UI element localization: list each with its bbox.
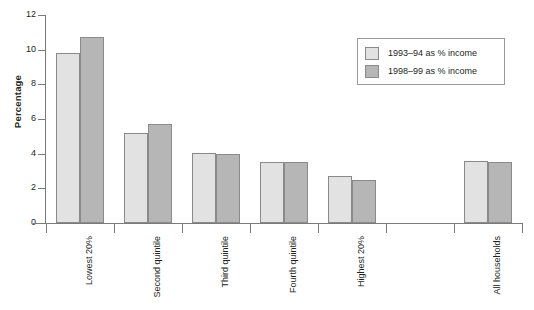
bar bbox=[192, 153, 216, 223]
bar bbox=[260, 162, 284, 223]
x-axis-category-label: Fourth quintile bbox=[288, 236, 298, 293]
bar bbox=[124, 133, 148, 223]
x-tick bbox=[114, 224, 115, 233]
x-tick bbox=[522, 224, 523, 233]
bar bbox=[488, 162, 512, 223]
bar bbox=[56, 53, 80, 223]
legend: 1993–94 as % income 1998–99 as % income bbox=[357, 38, 505, 85]
x-axis-category-label: Third quintile bbox=[220, 236, 230, 288]
x-tick bbox=[182, 224, 183, 233]
legend-swatch-1993-94-icon bbox=[365, 47, 379, 60]
x-axis-line bbox=[33, 223, 523, 224]
x-axis-category-label: Highest 20% bbox=[356, 236, 366, 287]
bar-chart: Percentage 024681012 Lowest 20%Second qu… bbox=[0, 0, 534, 310]
x-axis-category-label: Lowest 20% bbox=[84, 236, 94, 285]
x-axis-category-label: Second quintile bbox=[152, 236, 162, 298]
bar bbox=[148, 124, 172, 223]
legend-swatch-1998-99-icon bbox=[365, 65, 379, 78]
bar bbox=[464, 161, 488, 223]
x-tick bbox=[386, 224, 387, 233]
bar bbox=[328, 176, 352, 223]
x-axis-category-label: All households bbox=[492, 236, 502, 295]
x-tick bbox=[250, 224, 251, 233]
legend-item: 1993–94 as % income bbox=[365, 44, 497, 62]
x-tick bbox=[454, 224, 455, 233]
bar bbox=[80, 37, 104, 223]
bar bbox=[216, 154, 240, 223]
legend-label: 1998–99 as % income bbox=[388, 66, 477, 76]
legend-label: 1993–94 as % income bbox=[388, 48, 477, 58]
x-tick bbox=[46, 224, 47, 233]
x-tick bbox=[318, 224, 319, 233]
legend-item: 1998–99 as % income bbox=[365, 62, 497, 80]
bar bbox=[352, 180, 376, 223]
bar bbox=[284, 162, 308, 223]
